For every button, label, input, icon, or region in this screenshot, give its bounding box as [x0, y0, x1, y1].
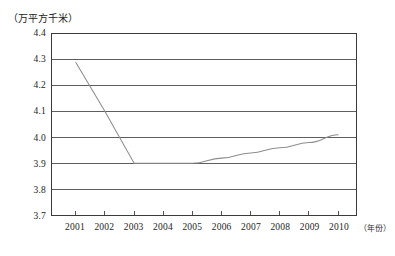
y-tick-label: 3.9	[20, 159, 46, 169]
data-series-line	[76, 62, 338, 163]
y-tick-label: 4.0	[20, 133, 46, 143]
x-tick-label: 2010	[319, 221, 359, 233]
y-axis-unit-label: （万平方千米）	[8, 13, 78, 25]
plot-area	[51, 33, 357, 216]
line-chart-figure: （万平方千米） 4.44.34.24.14.03.93.83.7 2001200…	[0, 0, 395, 256]
y-tick-label: 3.7	[20, 211, 46, 221]
y-tick-label: 4.4	[20, 28, 46, 38]
x-axis-unit-label: （年份）	[359, 224, 391, 234]
y-tick-label: 4.2	[20, 80, 46, 90]
y-axis-tick-labels: 4.44.34.24.14.03.93.83.7	[18, 33, 46, 216]
x-axis-tick-labels: 2001200220032004200520062007200820092010	[51, 221, 357, 237]
data-series-layer	[52, 34, 356, 215]
y-tick-label: 4.1	[20, 106, 46, 116]
y-tick-label: 4.3	[20, 54, 46, 64]
y-tick-label: 3.8	[20, 185, 46, 195]
